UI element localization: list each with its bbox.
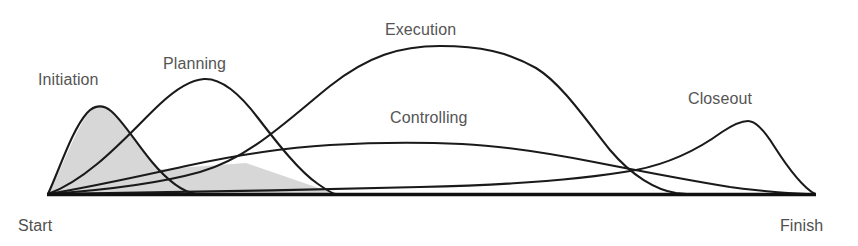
axis-label-finish: Finish: [780, 218, 823, 234]
curve-label-closeout: Closeout: [688, 91, 752, 107]
shaded-areas: [48, 107, 336, 194]
axis-label-start: Start: [18, 218, 52, 234]
curve-label-initiation: Initiation: [38, 72, 99, 88]
curve-label-planning: Planning: [163, 56, 226, 72]
process-group-curve-figure: Initiation Planning Execution Controllin…: [0, 0, 858, 246]
curve-label-controlling: Controlling: [390, 110, 468, 126]
curve-label-execution: Execution: [385, 22, 456, 38]
